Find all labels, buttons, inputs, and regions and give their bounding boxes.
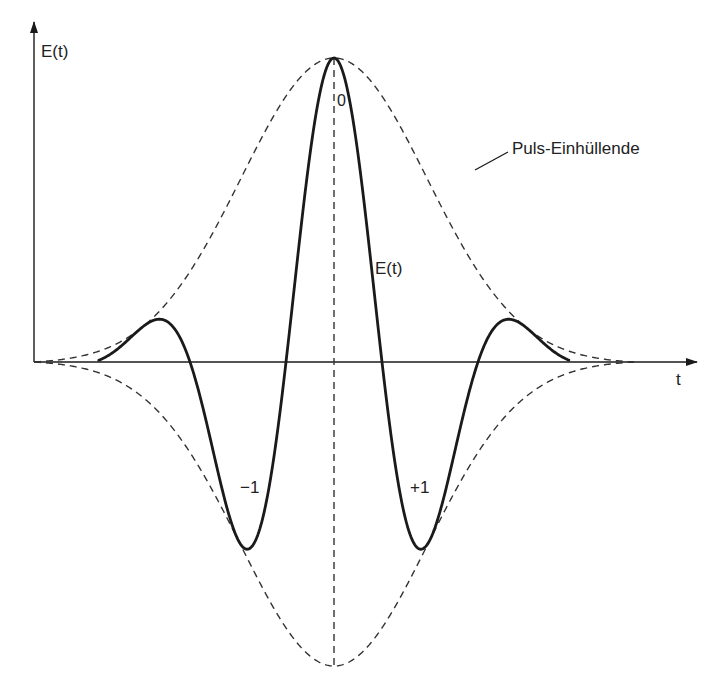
envelope-label: Puls-Einhüllende	[512, 139, 640, 158]
peak-label-minus-1: −1	[240, 478, 259, 497]
peak-label-0: 0	[337, 92, 346, 109]
pulse-diagram: E(t) t 0 E(t) −1 +1 Puls-Einhüllende	[0, 0, 714, 691]
curve-label: E(t)	[375, 259, 402, 278]
peak-label-plus-1: +1	[410, 478, 429, 497]
envelope-leader-line	[475, 152, 508, 170]
y-axis-label: E(t)	[41, 42, 68, 61]
x-axis-label: t	[676, 370, 681, 389]
